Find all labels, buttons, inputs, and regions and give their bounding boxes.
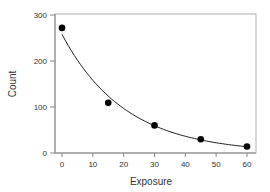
- y-tick-label: 300: [34, 11, 48, 20]
- x-tick-label: 10: [88, 160, 97, 169]
- x-axis-label: Exposure: [130, 176, 173, 187]
- data-points: [59, 25, 251, 150]
- y-axis-label: Count: [7, 70, 18, 97]
- x-tick-label: 20: [119, 160, 128, 169]
- data-point: [244, 143, 251, 150]
- fit-curve: [62, 34, 247, 146]
- data-point: [59, 25, 66, 32]
- y-axis: 0100200300: [34, 11, 55, 158]
- plot-frame: [55, 14, 256, 153]
- x-tick-label: 30: [150, 160, 159, 169]
- x-tick-label: 40: [181, 160, 190, 169]
- data-point: [151, 122, 158, 129]
- fit-line: [62, 34, 247, 146]
- chart-svg: 0100200300 0102030405060 Exposure Count: [0, 0, 270, 192]
- x-tick-label: 50: [212, 160, 221, 169]
- x-tick-label: 60: [243, 160, 252, 169]
- y-tick-label: 100: [34, 103, 48, 112]
- x-tick-label: 0: [60, 160, 65, 169]
- plot-border: [55, 14, 256, 153]
- y-tick-label: 0: [43, 149, 48, 158]
- data-point: [197, 136, 204, 143]
- y-tick-label: 200: [34, 57, 48, 66]
- scatter-chart: 0100200300 0102030405060 Exposure Count: [0, 0, 270, 192]
- data-point: [105, 100, 112, 107]
- x-axis: 0102030405060: [55, 153, 256, 169]
